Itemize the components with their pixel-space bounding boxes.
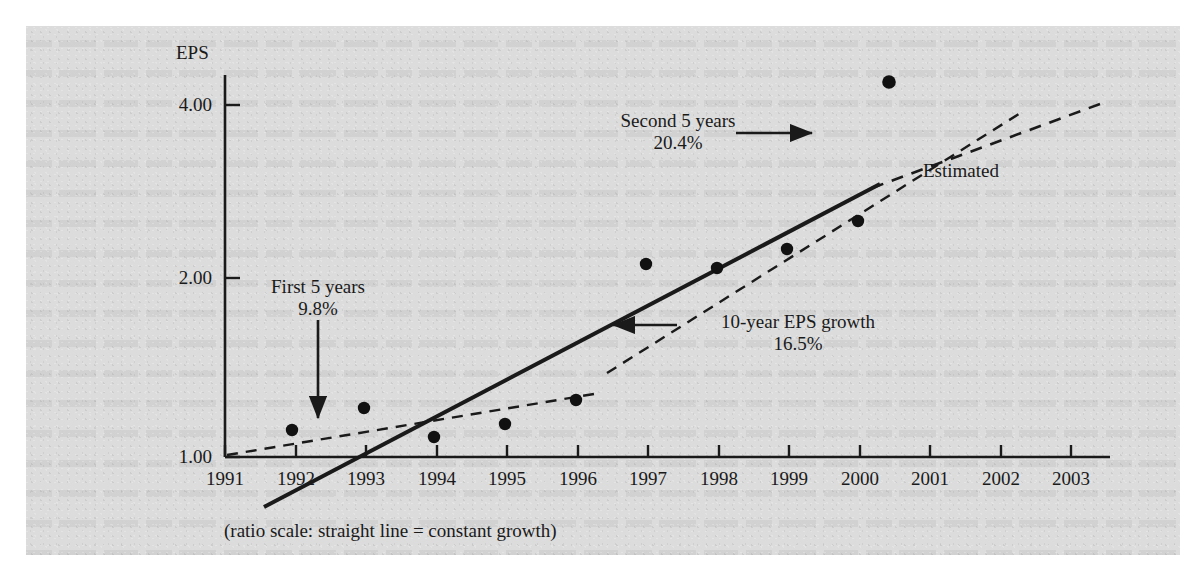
data-point-2001 [882,75,896,89]
annotation-ten-year-growth: 10-year EPS growth 16.5% [686,311,910,356]
x-tick-label-1996: 1996 [538,468,618,490]
x-tick-label-2002: 2002 [961,468,1041,490]
annotation-first-5-years-line1: First 5 years [228,276,408,298]
x-tick-label-1991: 1991 [185,468,265,490]
x-tick-label-1994: 1994 [397,468,477,490]
annotation-first-5-years: First 5 years 9.8% [228,276,408,321]
annotation-first-5-years-line2: 9.8% [228,298,408,320]
y-axis-title: EPS [176,42,209,64]
y-tick-label-4.00: 4.00 [140,94,212,116]
x-tick-label-1997: 1997 [608,468,688,490]
annotation-second-5-years: Second 5 years 20.4% [580,110,776,155]
annotation-estimated-line1: Estimated [923,160,1083,182]
data-point-1992 [286,424,298,436]
x-tick-label-2000: 2000 [820,468,900,490]
annotation-second-5-years-line2: 20.4% [580,132,776,154]
data-point-1994 [428,431,440,443]
data-point-1997 [640,258,652,270]
data-point-1993 [358,402,370,414]
annotation-second-5-years-line1: Second 5 years [580,110,776,132]
x-tick-label-1995: 1995 [467,468,547,490]
x-tick-label-1999: 1999 [749,468,829,490]
chart-caption: (ratio scale: straight line = constant g… [224,520,557,542]
data-point-1995 [499,418,511,430]
annotation-estimated: Estimated [923,160,1083,182]
annotation-ten-year-growth-line1: 10-year EPS growth [686,311,910,333]
data-point-1999 [781,243,793,255]
annotation-ten-year-growth-line2: 16.5% [686,333,910,355]
data-point-1998 [711,262,723,274]
trendline-first-5-years [227,393,600,455]
x-tick-label-1992: 1992 [256,468,336,490]
figure-root: EPS 4.00 2.00 1.00 1991 1992 1993 1994 1… [0,0,1202,574]
data-point-2000 [852,215,864,227]
x-axis-ticks [225,445,1071,457]
data-point-1996 [570,394,582,406]
x-tick-label-2003: 2003 [1031,468,1111,490]
y-tick-label-2.00: 2.00 [140,267,212,289]
x-tick-label-1993: 1993 [326,468,406,490]
x-tick-label-1998: 1998 [679,468,759,490]
y-tick-label-1.00: 1.00 [140,446,212,468]
x-tick-label-2001: 2001 [890,468,970,490]
